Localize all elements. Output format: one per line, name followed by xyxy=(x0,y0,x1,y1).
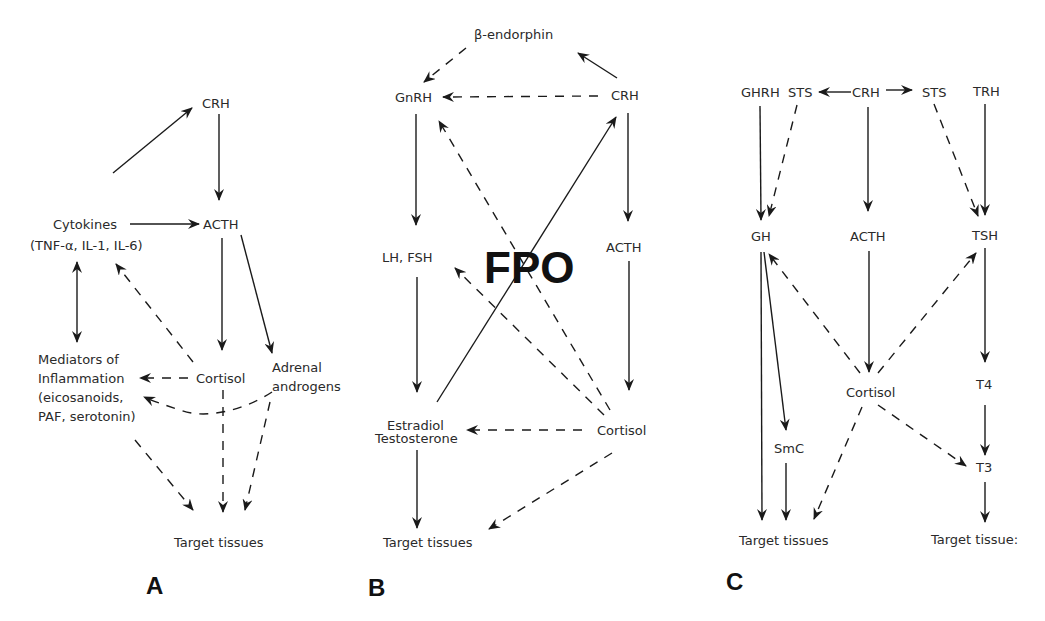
edge-c-sts-left-to-gh xyxy=(769,105,797,216)
fpo-watermark: FPO xyxy=(484,243,574,292)
node-adrenal-androgens: androgens xyxy=(272,379,341,394)
node-smc: SmC xyxy=(774,441,804,456)
node-acth: ACTH xyxy=(850,229,885,244)
node-gh: GH xyxy=(751,229,771,244)
node-cortisol: Cortisol xyxy=(597,423,646,438)
node-target-tissues: Target tissues xyxy=(173,535,264,550)
node-t4: T4 xyxy=(975,377,992,392)
edge-c-cortisol-to-tsh xyxy=(878,253,976,373)
edge-c-gh-to-target-left xyxy=(761,252,762,520)
edge-c-cortisol-to-gh xyxy=(769,254,860,373)
node-trh: TRH xyxy=(972,84,1000,99)
node-beta-endorphin: β-endorphin xyxy=(474,27,553,42)
node-tsh: TSH xyxy=(971,228,998,243)
edge-a-adrenal-androgens-to-mediators-2 xyxy=(144,392,272,414)
node-cortisol: Cortisol xyxy=(196,371,245,386)
node-mediators: (eicosanoids, xyxy=(38,390,123,405)
node-acth: ACTH xyxy=(203,217,238,232)
node-crh: CRH xyxy=(852,85,880,100)
edge-b-crh-to-gnrh xyxy=(443,96,598,97)
neuroendocrine-stress-diagram: CRH Cytokines (TNF-α, IL-1, IL-6) ACTH M… xyxy=(0,0,1045,621)
node-sts-right: STS xyxy=(922,85,946,100)
node-adrenal-androgens: Adrenal xyxy=(272,360,322,375)
panel-label-c: C xyxy=(726,568,743,595)
node-cytokines-detail: (TNF-α, IL-1, IL-6) xyxy=(30,238,143,253)
edge-c-gh-to-smc xyxy=(764,252,786,430)
node-acth: ACTH xyxy=(606,240,641,255)
node-mediators: Inflammation xyxy=(38,371,124,386)
node-crh: CRH xyxy=(611,88,639,103)
edge-c-ghrh-to-gh xyxy=(760,106,761,220)
edge-b-crh-to-beta-endorphin xyxy=(578,53,617,78)
node-target-tissues-right: Target tissue: xyxy=(930,532,1018,547)
node-mediators: PAF, serotonin) xyxy=(38,409,136,424)
node-t3: T3 xyxy=(975,460,992,475)
edge-a-acth-to-adrenal-androgens xyxy=(241,235,272,353)
panel-label-a: A xyxy=(146,572,163,599)
edge-c-cortisol-to-t3 xyxy=(878,405,966,466)
node-mediators: Mediators of xyxy=(38,352,119,367)
edge-a-adrenal-androgens-to-target xyxy=(245,402,270,510)
edge-a-cortisol-to-cytokines xyxy=(116,264,193,362)
edge-a-mediators-to-target xyxy=(135,440,193,510)
edge-c-cortisol-to-target-left xyxy=(814,407,862,519)
edge-c-sts-right-to-tsh xyxy=(934,104,978,216)
panel-c: GHRH STS CRH STS TRH GH ACTH TSH Cortiso… xyxy=(726,84,1018,595)
node-gnrh: GnRH xyxy=(395,90,432,105)
node-target-tissues: Target tissues xyxy=(382,535,473,550)
node-lh-fsh: LH, FSH xyxy=(382,250,433,265)
panel-label-b: B xyxy=(368,574,385,601)
node-target-tissues-left: Target tissues xyxy=(738,533,829,548)
edge-a-cytokines-to-crh xyxy=(113,108,192,173)
panel-a: CRH Cytokines (TNF-α, IL-1, IL-6) ACTH M… xyxy=(30,96,341,599)
edge-b-cortisol-to-target xyxy=(489,453,612,529)
edge-b-beta-endorphin-to-gnrh xyxy=(424,48,466,82)
node-sts-left: STS xyxy=(788,85,812,100)
node-testosterone: Testosterone xyxy=(374,431,458,446)
node-ghrh: GHRH xyxy=(741,85,780,100)
node-cytokines: Cytokines xyxy=(53,217,117,232)
node-crh: CRH xyxy=(202,96,230,111)
node-cortisol: Cortisol xyxy=(846,385,895,400)
panel-b: β-endorphin GnRH CRH LH, FSH ACTH Estrad… xyxy=(368,27,646,601)
